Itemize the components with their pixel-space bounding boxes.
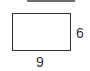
height-label: 6 [76, 26, 84, 40]
top-edge-line [27, 0, 75, 2]
rectangle-shape [12, 13, 71, 51]
width-label: 9 [36, 55, 44, 69]
